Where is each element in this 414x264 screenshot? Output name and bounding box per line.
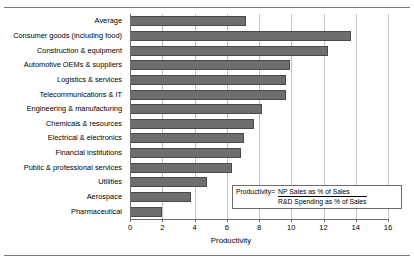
x-tick-label: 8	[249, 223, 269, 232]
bar	[130, 90, 286, 100]
bar	[130, 75, 286, 85]
x-tick-label: 12	[314, 223, 334, 232]
x-tick-label: 16	[378, 223, 398, 232]
value-axis-line	[130, 14, 131, 220]
bar	[130, 119, 254, 129]
x-tick-label: 2	[152, 223, 172, 232]
category-label: Electrical & electronics	[0, 134, 122, 142]
category-label: Telecommunications & IT	[0, 91, 122, 99]
bar	[130, 148, 241, 158]
x-tick-label: 0	[120, 223, 140, 232]
x-tick-label: 10	[281, 223, 301, 232]
bar-row	[130, 29, 388, 44]
category-label: Financial institutions	[0, 149, 122, 157]
bar-row	[130, 146, 388, 161]
x-tick-mark	[162, 219, 163, 222]
bar-row	[130, 117, 388, 132]
bar	[130, 192, 191, 202]
category-label: Logistics & services	[0, 76, 122, 84]
legend-annotation-box: Productivity= NP Sales as % of Sales R&D…	[232, 185, 402, 209]
x-tick-mark	[356, 219, 357, 222]
category-label: Public & professional services	[0, 164, 122, 172]
bottom-divider-rule	[4, 255, 410, 256]
x-axis-tick-labels: 0246810121416	[0, 222, 414, 234]
category-label: Aerospace	[0, 193, 122, 201]
x-axis-title: Productivity	[0, 236, 414, 245]
x-tick-mark	[195, 219, 196, 222]
x-tick-label: 6	[217, 223, 237, 232]
x-tick-mark	[324, 219, 325, 222]
bar-row	[130, 160, 388, 175]
x-tick-mark	[388, 219, 389, 222]
bar	[130, 31, 351, 41]
bar	[130, 163, 232, 173]
x-tick-label: 4	[185, 223, 205, 232]
bar-row	[130, 131, 388, 146]
category-label: Consumer goods (including food)	[0, 32, 122, 40]
category-label: Engineering & manufacturing	[0, 105, 122, 113]
bar	[130, 177, 207, 187]
x-tick-mark	[227, 219, 228, 222]
legend-fraction: NP Sales as % of Sales R&D Spending as %…	[278, 188, 366, 206]
category-label: Chemicals & resources	[0, 120, 122, 128]
top-divider-rule	[4, 7, 410, 8]
chart-figure: AverageConsumer goods (including food)Co…	[0, 0, 414, 264]
category-label: Construction & equipment	[0, 47, 122, 55]
bar	[130, 16, 246, 26]
category-axis-labels: AverageConsumer goods (including food)Co…	[0, 14, 126, 219]
category-label: Utilities	[0, 178, 122, 186]
x-tick-mark	[291, 219, 292, 222]
bar	[130, 60, 290, 70]
x-tick-label: 14	[346, 223, 366, 232]
bar	[130, 104, 262, 114]
bar	[130, 133, 244, 143]
bar-row	[130, 102, 388, 117]
bar	[130, 46, 328, 56]
x-tick-mark	[130, 219, 131, 222]
bar-row	[130, 43, 388, 58]
category-label: Average	[0, 17, 122, 25]
bar-row	[130, 73, 388, 88]
category-label: Pharmaceutical	[0, 208, 122, 216]
bar-row	[130, 87, 388, 102]
legend-label: Productivity=	[236, 188, 278, 196]
legend-numerator: NP Sales as % of Sales	[278, 188, 366, 197]
bar-row	[130, 58, 388, 73]
category-label: Automotive OEMs & suppliers	[0, 61, 122, 69]
x-tick-mark	[259, 219, 260, 222]
bar-row	[130, 14, 388, 29]
bar	[130, 207, 162, 217]
legend-denominator: R&D Spending as % of Sales	[278, 197, 366, 206]
